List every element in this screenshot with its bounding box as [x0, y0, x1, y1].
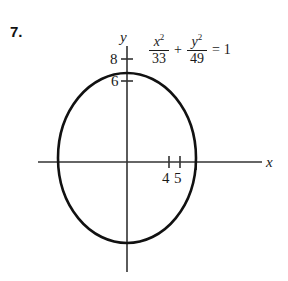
equals-sign: = [212, 43, 220, 57]
ellipse-graph [0, 0, 288, 281]
y-axis-label: y [120, 30, 127, 45]
x-tick-label-4: 4 [162, 171, 170, 186]
fraction-numerator-y: y2 [189, 33, 206, 50]
y-tick-label-6: 6 [111, 74, 119, 89]
ellipse-equation: x2 33 + y2 49 = 1 [148, 33, 231, 67]
figure-page: 7. y x 8 6 4 5 x2 33 + y2 49 = 1 [0, 0, 288, 281]
fraction-numerator-x: x2 [151, 33, 168, 50]
x-axis-label: x [266, 155, 273, 170]
fraction-denominator-49: 49 [187, 51, 207, 67]
equation-result: 1 [224, 43, 231, 57]
exponent-x: 2 [160, 32, 165, 42]
x-tick-label-5: 5 [174, 171, 182, 186]
plus-operator: + [174, 43, 182, 57]
fraction-denominator-33: 33 [149, 51, 169, 67]
y-tick-label-8: 8 [110, 52, 118, 67]
fraction-x-term: x2 33 [149, 33, 169, 67]
exponent-y: 2 [198, 32, 203, 42]
fraction-y-term: y2 49 [187, 33, 207, 67]
